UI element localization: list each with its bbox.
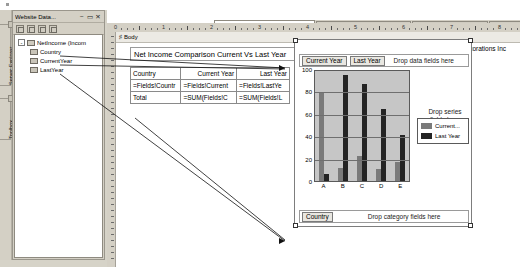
vertical-ruler[interactable] — [107, 32, 116, 267]
ruler-tick — [111, 42, 114, 43]
ruler-tick — [111, 180, 114, 181]
report-data-table[interactable]: Country Current Year Last Year =Fields!C… — [130, 67, 290, 104]
table-header-country: Country — [131, 68, 181, 80]
chart-plot-area[interactable]: 020406080100 ABCDE Current... — [299, 70, 423, 196]
ruler-tick — [111, 132, 114, 133]
tree-node-currentyear[interactable]: CurrentYear — [17, 56, 100, 65]
bar-last-year — [381, 109, 386, 181]
close-icon[interactable]: ✕ — [94, 13, 102, 21]
ruler-tick — [111, 48, 114, 49]
ruler-tick — [409, 28, 410, 30]
copy-icon[interactable] — [49, 25, 57, 33]
ruler-tick — [199, 28, 200, 30]
ruler-tick — [481, 28, 482, 30]
tree-node-label: CurrentYear — [40, 58, 72, 64]
resize-handle-bl[interactable] — [293, 223, 298, 228]
ruler-tick — [439, 28, 440, 30]
ruler-tick — [111, 216, 114, 217]
report-canvas[interactable]: Net Income Comparison Current Vs Last Ye… — [116, 43, 520, 267]
ruler-tick — [463, 28, 464, 30]
table-detail-row[interactable]: =Fields!Countr =Fields!Current =Fields!L… — [131, 80, 290, 92]
cell-country-expr[interactable]: =Fields!Countr — [131, 80, 181, 92]
ruler-tick — [111, 150, 114, 151]
tree-node-netincome[interactable]: - NetIncome (Incom — [17, 38, 100, 47]
ruler-tick — [111, 78, 114, 79]
ruler-tick — [301, 28, 302, 30]
ruler-tick — [157, 28, 158, 30]
y-axis-tick-label: 100 — [302, 67, 312, 73]
expander-icon[interactable]: - — [18, 39, 25, 46]
add-new-data-source-icon[interactable] — [16, 25, 24, 33]
drop-category-fields-zone[interactable]: Country Drop category fields here — [299, 210, 469, 223]
pin-icon[interactable]: − — [78, 13, 86, 21]
chart-plot — [314, 70, 410, 182]
ruler-tick — [133, 28, 134, 30]
ruler-tick — [111, 72, 114, 73]
legend-swatch-current — [421, 123, 432, 129]
table-total-row[interactable]: Total =SUM(Fields!C =SUM(Fields!L — [131, 92, 290, 104]
ruler-tick — [361, 28, 362, 30]
dock-icon[interactable]: ▭ — [86, 13, 94, 21]
cell-total-last-expr[interactable]: =SUM(Fields!L — [237, 92, 290, 104]
ruler-tick — [111, 144, 114, 145]
cell-total-label[interactable]: Total — [131, 92, 181, 104]
data-field-chip-last-year[interactable]: Last Year — [350, 56, 385, 66]
chart-legend[interactable]: Current... Last Year — [417, 118, 469, 144]
ruler-tick — [169, 28, 170, 30]
bar-group — [374, 71, 388, 181]
tree-node-country[interactable]: Country — [17, 47, 100, 56]
ruler-tick — [111, 174, 114, 175]
refresh-icon[interactable] — [27, 25, 35, 33]
table-header-row: Country Current Year Last Year — [131, 68, 290, 80]
ruler-tick — [517, 28, 518, 30]
bar-group — [393, 71, 407, 181]
ruler-tick — [319, 28, 320, 30]
cell-current-expr[interactable]: =Fields!Current — [181, 80, 237, 92]
panel-title-bar: Website Data... − ▭ ✕ — [13, 11, 104, 23]
band-marker-icon: ♯ — [119, 34, 122, 40]
x-axis-tick-label: D — [374, 183, 388, 193]
y-axis-tick-label: 0 — [309, 179, 312, 185]
tree-node-lastyear[interactable]: LastYear — [17, 65, 100, 74]
ruler-tick — [283, 26, 284, 30]
resize-handle-br[interactable] — [468, 223, 473, 228]
configure-icon[interactable] — [38, 25, 46, 33]
category-field-chip-country[interactable]: Country — [302, 212, 333, 222]
vertical-tab-server-explorer[interactable]: Server Explorer — [0, 24, 11, 86]
ruler-tick — [505, 28, 506, 30]
chart-gridline — [315, 137, 409, 138]
drop-category-fields-label: Drop category fields here — [368, 213, 441, 220]
ruler-tick — [111, 120, 114, 121]
cell-last-expr[interactable]: =Fields!LastYe — [237, 80, 290, 92]
bar-group — [317, 71, 331, 181]
cell-total-current-expr[interactable]: =SUM(Fields!C — [181, 92, 237, 104]
vertical-tab-toolbox[interactable]: Toolbox — [0, 98, 11, 140]
ruler-tick — [421, 28, 422, 30]
data-sources-tree-container[interactable]: - NetIncome (Incom Country CurrentYear L… — [14, 34, 103, 258]
ruler-tick — [127, 28, 128, 30]
ruler-tick — [111, 108, 114, 109]
ruler-label: 4 — [306, 23, 309, 32]
ruler-tick — [367, 28, 368, 30]
data-field-chip-current-year[interactable]: Current Year — [302, 56, 347, 66]
table-header-current-year: Current Year — [181, 68, 237, 80]
ruler-tick — [277, 28, 278, 30]
ruler-tick — [175, 28, 176, 30]
ruler-tick — [111, 66, 114, 67]
ruler-tick — [493, 28, 494, 30]
resize-handle-tl[interactable] — [293, 38, 298, 43]
ruler-tick — [111, 210, 114, 211]
ruler-tick — [295, 28, 296, 30]
legend-entry-current: Current... — [421, 121, 465, 131]
ruler-tick — [111, 234, 114, 235]
chart-control[interactable]: Current Year Last Year Drop data fields … — [294, 39, 472, 227]
ruler-tick — [111, 84, 114, 85]
report-design-surface[interactable]: ♯ Body Net Income Comparison Current Vs … — [116, 32, 520, 267]
resize-handle-tr[interactable] — [468, 38, 473, 43]
ruler-tick — [445, 28, 446, 30]
x-axis-tick-label: A — [317, 183, 331, 193]
ruler-tick — [427, 26, 428, 30]
ruler-tick — [265, 28, 266, 30]
ruler-tick — [469, 28, 470, 30]
drop-data-fields-zone[interactable]: Current Year Last Year Drop data fields … — [299, 54, 469, 67]
